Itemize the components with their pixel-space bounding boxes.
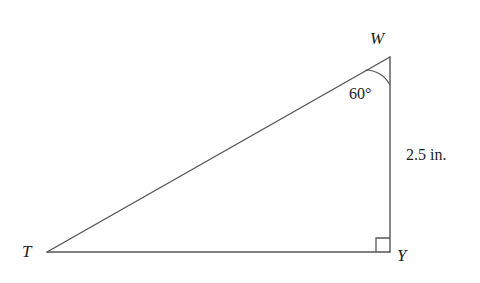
triangle-drawing (0, 0, 480, 283)
side-length-label-wy: 2.5 in. (406, 147, 446, 163)
geometry-figure: W T Y 2.5 in. 60° (0, 0, 480, 283)
vertex-label-y: Y (397, 247, 406, 264)
side-hypotenuse-tw (47, 57, 390, 252)
right-angle-marker-y (376, 238, 390, 252)
vertex-label-t: T (22, 243, 31, 260)
angle-arc-w (365, 70, 390, 85)
angle-measure-label-w: 60° (349, 86, 371, 102)
vertex-label-w: W (370, 30, 384, 47)
